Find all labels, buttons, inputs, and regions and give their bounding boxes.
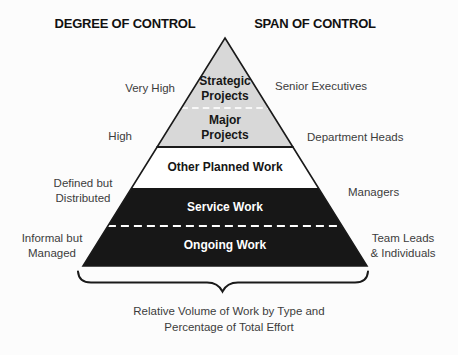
span-label-managers: Managers — [348, 185, 438, 200]
span-label-department-heads: Department Heads — [307, 130, 427, 145]
span-label-senior-executives: Senior Executives — [275, 79, 395, 94]
span-label-team-leads: Team Leads & Individuals — [358, 231, 448, 261]
volume-brace — [78, 272, 368, 292]
degree-label-defined-but-distributed: Defined but Distributed — [33, 176, 133, 206]
degree-label-very-high: Very High — [75, 81, 175, 96]
label-service-work: Service Work — [145, 200, 305, 215]
label-major-projects: Major Projects — [145, 113, 305, 143]
pyramid-diagram: DEGREE OF CONTROL SPAN OF CONTROL Strate… — [0, 0, 458, 355]
label-other-planned-work: Other Planned Work — [145, 160, 305, 175]
label-ongoing-work: Ongoing Work — [145, 238, 305, 253]
caption: Relative Volume of Work by Type and Perc… — [104, 303, 354, 335]
degree-label-high: High — [52, 129, 132, 144]
degree-label-informal-but-managed: Informal but Managed — [2, 231, 102, 261]
